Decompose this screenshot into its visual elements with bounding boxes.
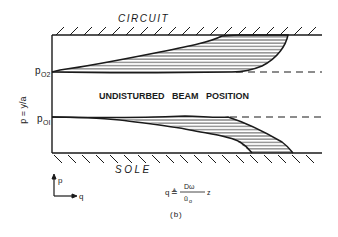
p02-label: p O2 xyxy=(35,65,50,78)
svg-text:Dω: Dω xyxy=(184,183,195,190)
beam-diagram: CIRCUIT SOLE UNDISTURBED BEAM POSITION p… xyxy=(0,0,338,237)
svg-text:z: z xyxy=(207,189,211,196)
sole-label: SOLE xyxy=(115,164,152,175)
undisturbed-beam-label: UNDISTURBED BEAM POSITION xyxy=(99,91,249,101)
svg-text:O2: O2 xyxy=(41,71,50,78)
q-definition-formula: q ≜ Dω ū o z xyxy=(165,183,211,204)
svg-text:ū: ū xyxy=(184,195,188,202)
svg-text:q: q xyxy=(165,188,169,197)
lower-beam-perturbation xyxy=(52,110,322,155)
circuit-label: CIRCUIT xyxy=(118,13,169,24)
svg-text:≜: ≜ xyxy=(171,188,178,197)
svg-text:OI: OI xyxy=(43,119,50,126)
axis-p-label: p xyxy=(58,176,63,185)
p01-label: p OI xyxy=(37,113,50,126)
pq-axes-indicator xyxy=(52,174,77,198)
upper-beam-perturbation xyxy=(52,30,322,80)
sole-wall xyxy=(52,153,322,163)
circuit-wall xyxy=(52,27,322,35)
axis-q-label: q xyxy=(79,192,83,201)
figure-caption: (b) xyxy=(170,210,183,219)
y-axis-label: p = y/a xyxy=(18,96,28,123)
svg-text:o: o xyxy=(189,198,192,204)
